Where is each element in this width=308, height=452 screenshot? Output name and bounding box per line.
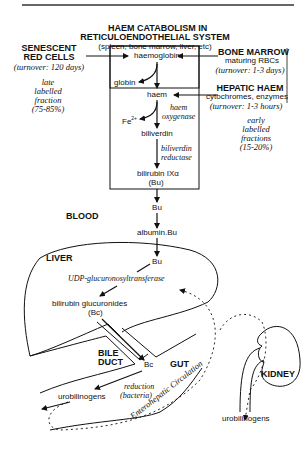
bc-label: Bc (144, 361, 153, 369)
bone-marrow-turnover: (turnover: 1-3 days) (212, 66, 288, 75)
liver-bu-label: Bu (146, 258, 168, 266)
urobilinogens-kidney-label: urobilinogens (222, 415, 270, 423)
bc-paren-label: (Bc) (88, 309, 103, 317)
bone-marrow-desc: maturing RBCs (218, 57, 286, 65)
hepatic-haem-desc: cytochromes, enzymes (206, 93, 288, 101)
senescent-turnover: (turnover: 120 days) (4, 63, 94, 72)
ureter (240, 348, 264, 412)
bu-label: Bu (146, 204, 168, 212)
biliverdin-label: biliverdin (136, 130, 178, 138)
reduction-1: reduction (124, 383, 154, 391)
fe-label: Fe2+ (122, 116, 137, 126)
biliverdin-reductase-1: biliverdin (161, 145, 192, 153)
late-fraction-4: (75-85%) (20, 105, 76, 114)
liver-label: LIVER (46, 254, 73, 263)
blood-label: BLOOD (66, 212, 99, 221)
title-line-2: RETICULOENDOTHELIAL SYSTEM (78, 33, 232, 42)
globin-label: globin (114, 79, 135, 87)
udp-label: UDP-glucuronosyltransferase (68, 275, 165, 283)
hepatic-haem-turnover: (turnover: 1-3 hours) (206, 102, 286, 111)
title-subtitle: (spleen, bone marrow, liver, etc) (90, 43, 220, 51)
haemoglobin-label: haemoglobin (128, 52, 186, 60)
haem-oxygenase-2: oxygenase (162, 113, 195, 121)
glucuronides-label: bilirubin glucuronides (52, 300, 127, 308)
urobilinogens-gut-label: urobilinogens (58, 393, 106, 401)
bu-paren-label: (Bu) (144, 179, 168, 187)
biliverdin-reductase-2: reductase (161, 154, 192, 162)
bile-duct-label-2: DUCT (98, 358, 123, 367)
albumin-bu-label: albumin.Bu (126, 229, 188, 237)
kidney-label: KIDNEY (261, 370, 295, 379)
early-fraction-4: (15-20%) (228, 143, 284, 152)
bilirubin-label: bilirubin IXα (128, 170, 188, 178)
haem-oxygenase-1: haem (170, 104, 187, 112)
haem-label: haem (145, 91, 169, 99)
senescent-line-2: RED CELLS (8, 53, 90, 62)
